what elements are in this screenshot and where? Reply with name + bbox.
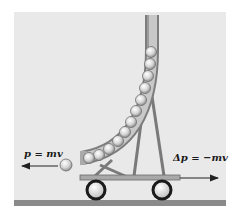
cart-momentum-label: Δp = −mv	[173, 152, 228, 163]
ejected-ball	[60, 159, 72, 171]
ground	[14, 200, 226, 206]
cart-platform	[80, 175, 180, 180]
momentum-diagram-svg	[0, 0, 238, 223]
wheel-left	[87, 181, 105, 199]
wheel-right	[153, 181, 171, 199]
diagram: p = mv Δp = −mv	[0, 0, 238, 223]
ball-momentum-label: p = mv	[24, 148, 63, 159]
